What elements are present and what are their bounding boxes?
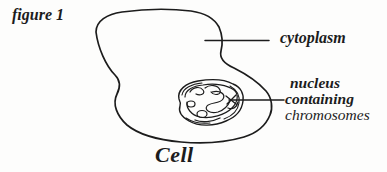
chromosome-oval-small	[197, 111, 207, 118]
nucleus-label: nucleus containing chromosomes	[285, 75, 370, 123]
cell-caption: Cell	[155, 144, 194, 166]
figure-label: figure 1	[12, 7, 64, 23]
figure-panel: figure 1 cytoplasm nucleus containing ch…	[0, 0, 387, 172]
cytoplasm-label: cytoplasm	[280, 30, 346, 46]
nucleus-label-line3: chromosomes	[285, 107, 370, 123]
nucleus-label-line1: nucleus	[290, 75, 370, 91]
nucleus-label-line2: containing	[285, 91, 370, 107]
chromosome-oval-tiny	[187, 101, 195, 107]
cell-membrane-outline	[96, 9, 272, 142]
